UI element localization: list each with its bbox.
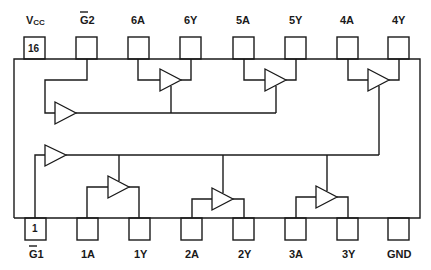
pin-label-gnd: GND	[387, 248, 412, 260]
pin-label-vcc: VCC	[26, 14, 45, 27]
pin-label-2a: 2A	[185, 248, 199, 260]
svg-text:G2: G2	[80, 14, 95, 26]
pin-label-3a: 3A	[289, 248, 303, 260]
pin-label-5y: 5Y	[289, 14, 303, 26]
pin-box-5y	[285, 37, 306, 59]
pin-label-4y: 4Y	[392, 14, 406, 26]
pin-box-2y	[233, 218, 254, 240]
pinout-diagram: VCC G2 6A 6Y 5A 5Y 4A 4Y 16 1	[0, 0, 431, 270]
pin-box-g2	[76, 37, 97, 59]
buffer-1	[87, 155, 139, 218]
pin-box-1y	[129, 218, 150, 240]
pin-label-2y: 2Y	[238, 248, 252, 260]
pin-label-6a: 6A	[131, 14, 145, 26]
pin-box-4y	[388, 37, 409, 59]
pin-box-6y	[180, 37, 201, 59]
buffer-3	[296, 155, 348, 218]
pin-box-2a	[181, 218, 202, 240]
pin-number-16: 16	[28, 43, 40, 54]
pin-box-5a	[233, 37, 254, 59]
pin-box-1a	[77, 218, 98, 240]
buffer-6	[138, 59, 191, 113]
svg-text:G1: G1	[29, 248, 44, 260]
pin-label-g1: G1	[29, 246, 44, 260]
pin-label-6y: 6Y	[184, 14, 198, 26]
pin-box-3a	[285, 218, 306, 240]
pin-box-3y	[337, 218, 358, 240]
bottom-pins: 1	[25, 218, 409, 240]
pin-label-g2: G2	[80, 12, 95, 26]
pin-label-3y: 3Y	[342, 248, 356, 260]
buffer-2	[192, 155, 244, 218]
pin-label-5a: 5A	[236, 14, 250, 26]
buffer-5	[244, 59, 296, 113]
pin-label-1y: 1Y	[134, 248, 148, 260]
buffer-triangle-icon	[55, 102, 76, 124]
pin-label-1a: 1A	[81, 248, 95, 260]
bottom-pin-labels: G1 1A 1Y 2A 2Y 3A 3Y GND	[29, 246, 412, 260]
buffer-4	[348, 59, 399, 155]
pin-box-4a	[337, 37, 358, 59]
top-pin-labels: VCC G2 6A 6Y 5A 5Y 4A 4Y	[26, 12, 406, 27]
pin-box-6a	[128, 37, 149, 59]
pin-number-1: 1	[32, 223, 38, 234]
top-pins: 16	[24, 37, 409, 59]
buffer-triangle-icon	[45, 145, 66, 166]
pin-box-gnd	[388, 218, 409, 240]
pin-label-4a: 4A	[340, 14, 354, 26]
